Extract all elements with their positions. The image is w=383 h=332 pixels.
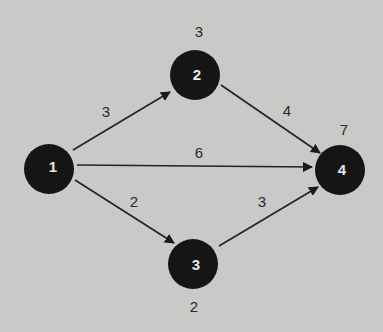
- edge-1-4: [77, 165, 312, 167]
- edge-1-2: [73, 92, 170, 150]
- edge-1-4-weight: 6: [195, 145, 203, 160]
- node-4-time: 7: [340, 122, 348, 137]
- edges-layer: [0, 0, 383, 332]
- edge-2-4-weight: 4: [283, 103, 291, 118]
- node-2-time: 3: [195, 24, 203, 39]
- node-1-label: 1: [49, 159, 57, 174]
- edge-1-3: [75, 180, 174, 243]
- network-diagram: 1 2 3 4 3 2 7 3 6 2 4 3: [0, 0, 383, 332]
- edge-1-3-weight: 2: [130, 194, 138, 209]
- edge-1-2-weight: 3: [102, 104, 110, 119]
- node-2-label: 2: [193, 67, 201, 82]
- edge-3-4-weight: 3: [258, 194, 266, 209]
- node-4-label: 4: [338, 162, 346, 177]
- edge-3-4: [219, 187, 318, 246]
- node-3-label: 3: [192, 257, 200, 272]
- edge-2-4: [221, 85, 320, 153]
- node-3-time: 2: [190, 299, 198, 314]
